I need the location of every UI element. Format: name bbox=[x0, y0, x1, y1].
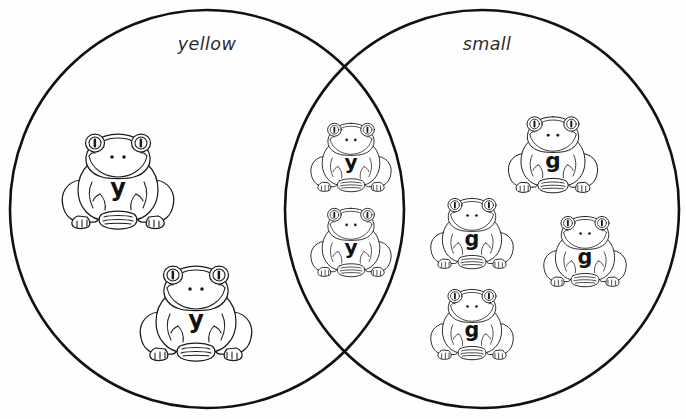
frog-item[interactable]: y bbox=[62, 134, 174, 229]
frog-belly-letter: g bbox=[545, 148, 560, 173]
frog-item[interactable]: g bbox=[431, 198, 514, 268]
frogs-group: y y y y g bbox=[62, 117, 626, 361]
frog-belly-letter: g bbox=[465, 227, 480, 251]
frog-item[interactable]: g bbox=[544, 216, 627, 286]
frog-belly-letter: g bbox=[465, 318, 480, 342]
frog-belly-letter: y bbox=[344, 150, 357, 174]
frog-belly-letter: y bbox=[110, 174, 126, 202]
frog-belly-letter: g bbox=[578, 245, 593, 269]
frog-belly-letter: y bbox=[344, 235, 357, 259]
frog-item[interactable]: g bbox=[431, 289, 514, 359]
frog-item[interactable]: g bbox=[508, 117, 597, 193]
frog-belly-letter: y bbox=[188, 306, 204, 334]
venn-diagram-svg: yellow small y y y y bbox=[0, 0, 686, 419]
frog-item[interactable]: y bbox=[311, 123, 391, 191]
set-label-yellow: yellow bbox=[177, 34, 237, 54]
venn-diagram-canvas: yellow small y y y y bbox=[0, 0, 686, 419]
set-label-small: small bbox=[463, 34, 512, 54]
frog-item[interactable]: y bbox=[140, 266, 252, 361]
frog-item[interactable]: y bbox=[311, 208, 391, 276]
